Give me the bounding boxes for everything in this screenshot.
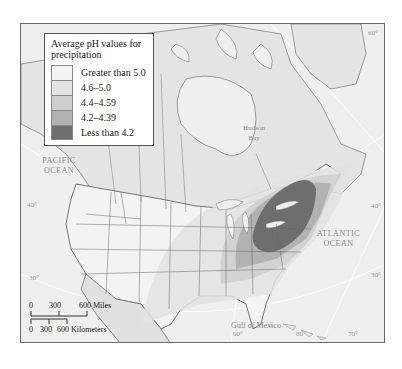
- latitude-label: 40°: [27, 201, 37, 209]
- legend-item: 4.6–5.0: [51, 80, 147, 95]
- scale-lines: [29, 311, 99, 325]
- legend-items: Greater than 5.0 4.6–5.0 4.4–4.59 4.2–4.…: [51, 65, 147, 140]
- longitude-label: 90°: [233, 330, 243, 338]
- gulf-of-mexico-label: Gulf of Mexico: [221, 321, 291, 331]
- scale-tick: 300: [40, 325, 52, 334]
- latitude-label: 40°: [371, 202, 381, 210]
- legend-label: 4.2–4.39: [81, 112, 116, 123]
- scale-tick: 600: [79, 301, 91, 310]
- pacific-ocean-label: PACIFIC OCEAN: [29, 156, 89, 176]
- hudson-bay-label: Hudson Bay: [239, 123, 269, 143]
- scale-tick: 0: [29, 325, 33, 334]
- scale-tick: 0: [29, 301, 33, 310]
- legend-title: Average pH values for precipitation: [51, 38, 147, 60]
- latitude-label: 60°: [368, 29, 378, 37]
- longitude-label: 70°: [348, 330, 358, 338]
- legend-swatch: [51, 80, 73, 95]
- scale-tick: 600: [57, 325, 69, 334]
- legend-swatch: [51, 125, 73, 140]
- legend-label: Less than 4.2: [81, 127, 134, 138]
- legend-item: Less than 4.2: [51, 125, 147, 140]
- legend-swatch: [51, 110, 73, 125]
- scale-tick: 300: [49, 301, 61, 310]
- legend-item: 4.4–4.59: [51, 95, 147, 110]
- scale-unit-km: Kilometers: [71, 325, 107, 334]
- legend-item: Greater than 5.0: [51, 65, 147, 80]
- latitude-label: 30°: [371, 271, 381, 279]
- legend-label: 4.6–5.0: [81, 82, 111, 93]
- legend-label: Greater than 5.0: [81, 67, 146, 78]
- legend-swatch: [51, 65, 73, 80]
- acid-rain-map: Average pH values for precipitation Grea…: [20, 23, 385, 343]
- legend-label: 4.4–4.59: [81, 97, 116, 108]
- legend-swatch: [51, 95, 73, 110]
- legend-item: 4.2–4.39: [51, 110, 147, 125]
- latitude-label: 30°: [29, 274, 39, 282]
- scale-unit-miles: Miles: [93, 301, 111, 310]
- scale-bar: 0 300 600 Miles 0 300 600 Kilometers: [29, 301, 139, 341]
- atlantic-ocean-label: ATLANTIC OCEAN: [311, 229, 366, 249]
- legend: Average pH values for precipitation Grea…: [44, 33, 154, 146]
- longitude-label: 80°: [296, 330, 306, 338]
